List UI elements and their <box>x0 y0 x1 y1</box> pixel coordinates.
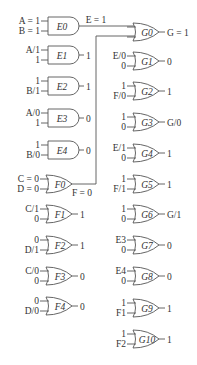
input-label: E/0 <box>113 51 126 61</box>
input-label: 1 <box>121 204 126 214</box>
output-label: 1 <box>86 82 91 92</box>
output-label: G = 1 <box>167 28 189 38</box>
gate-name: G1 <box>141 57 153 67</box>
input-label: 1 <box>121 174 126 184</box>
gate-name: G7 <box>141 241 154 251</box>
output-label: 0 <box>86 114 91 124</box>
input-label: 0 <box>121 214 126 224</box>
input-wire <box>127 240 136 250</box>
input-label: F1 <box>116 308 126 318</box>
input-label: 0 <box>121 61 126 71</box>
input-wire <box>41 113 48 123</box>
gate-name: F0 <box>54 180 66 190</box>
input-label: A = 1 <box>19 16 40 26</box>
gate-name: F4 <box>54 302 66 312</box>
gate-name: E2 <box>56 82 68 92</box>
input-wire <box>41 81 48 91</box>
input-label: 1 <box>35 140 40 150</box>
input-wire <box>41 145 48 155</box>
input-label: E3 <box>115 235 126 245</box>
input-label: 1 <box>35 55 40 65</box>
output-label: 0 <box>80 302 85 312</box>
output-label: 1 <box>167 149 172 159</box>
input-wire <box>127 27 136 37</box>
gate-name: G3 <box>141 118 153 128</box>
output-label: 1 <box>80 241 85 251</box>
output-label: 1 <box>167 335 172 345</box>
input-label: 0 <box>34 214 39 224</box>
input-label: 0 <box>34 296 39 306</box>
input-wire <box>127 303 136 313</box>
output-label: 0 <box>80 272 85 282</box>
input-wire <box>127 209 136 219</box>
gate-name: G6 <box>141 210 153 220</box>
input-wire <box>40 179 49 189</box>
input-wire <box>41 50 48 60</box>
gate-name: G0 <box>141 28 153 38</box>
output-label: G/1 <box>167 210 182 220</box>
input-label: 0 <box>34 235 39 245</box>
input-label: 1 <box>121 329 126 339</box>
input-wire <box>40 240 49 250</box>
input-label: 1 <box>35 118 40 128</box>
gate-name: G5 <box>141 180 153 190</box>
gate-name: E3 <box>56 114 68 124</box>
input-label: 1 <box>121 112 126 122</box>
input-wire <box>127 56 136 66</box>
input-label: B = 1 <box>19 26 40 36</box>
gate-name: G10 <box>139 335 156 345</box>
input-wire <box>127 86 136 96</box>
output-label: 0 <box>86 146 91 156</box>
input-label: D/0 <box>25 306 40 316</box>
input-label: A/0 <box>26 108 41 118</box>
gate-name: G2 <box>141 87 153 97</box>
input-label: 0 <box>34 276 39 286</box>
input-label: B/1 <box>26 86 40 96</box>
input-label: 0 <box>121 153 126 163</box>
gate-name: E1 <box>56 51 68 61</box>
output-label: G/0 <box>167 118 182 128</box>
input-wire <box>127 271 136 281</box>
input-label: D = 0 <box>17 184 39 194</box>
input-wire <box>127 179 136 189</box>
input-label: F/1 <box>113 184 126 194</box>
input-label: 0 <box>121 122 126 132</box>
input-wire <box>127 117 136 127</box>
input-label: D/1 <box>25 245 40 255</box>
output-label: 0 <box>167 272 172 282</box>
gate-name: F2 <box>54 241 66 251</box>
input-label: C = 0 <box>18 174 39 184</box>
gate-name: E4 <box>56 146 68 156</box>
input-label: F2 <box>116 339 126 349</box>
input-label: 1 <box>35 76 40 86</box>
output-label: 1 <box>86 51 91 61</box>
output-label: 1 <box>167 304 172 314</box>
input-label: E/1 <box>113 143 126 153</box>
input-wire <box>40 301 49 311</box>
input-label: E4 <box>115 266 126 276</box>
input-label: C/0 <box>25 266 39 276</box>
input-label: 0 <box>121 276 126 286</box>
input-label: 0 <box>121 245 126 255</box>
output-label: 1 <box>167 180 172 190</box>
output-label: 0 <box>167 241 172 251</box>
gate-name: G4 <box>141 149 153 159</box>
input-label: C/1 <box>25 204 39 214</box>
input-wire <box>127 148 136 158</box>
input-label: B/0 <box>26 150 40 160</box>
output-label: E = 1 <box>86 15 107 25</box>
output-label: F = 0 <box>72 188 92 198</box>
input-label: F/0 <box>113 91 126 101</box>
input-label: A/1 <box>26 45 41 55</box>
input-wire <box>127 334 136 344</box>
input-label: 1 <box>121 81 126 91</box>
gate-name: G9 <box>141 304 153 314</box>
input-wire <box>40 271 49 281</box>
output-label: 0 <box>167 57 172 67</box>
output-label: 1 <box>80 210 85 220</box>
gate-name: E0 <box>56 22 68 32</box>
input-wire <box>40 209 49 219</box>
logic-diagram: E0A = 1B = 1E = 1E1A/111E21B/11E3A/010E4… <box>0 0 197 365</box>
gate-name: F3 <box>54 272 66 282</box>
gate-name: F1 <box>54 210 66 220</box>
